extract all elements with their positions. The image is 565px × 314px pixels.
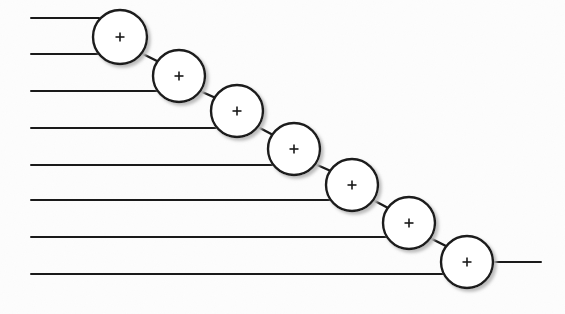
adder-node: + [211, 85, 263, 137]
diagram-canvas: +++++++ A descending staircase of seven … [0, 0, 565, 314]
adder-node: + [441, 236, 493, 288]
adder-node: + [153, 50, 205, 102]
adder-node: + [268, 123, 320, 175]
adder-node: + [93, 10, 147, 64]
adder-node: + [326, 159, 378, 211]
adder-cascade-diagram: +++++++ [0, 0, 565, 314]
adder-node: + [383, 197, 435, 249]
